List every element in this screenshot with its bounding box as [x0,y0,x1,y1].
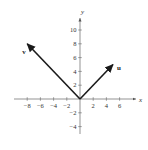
x-tick-label: −4 [50,102,58,109]
y-tick-label: 10 [70,26,77,33]
y-tick-label: −2 [70,109,77,116]
vector-v-label: v [22,48,26,56]
vector-diagram: −8−6−4−2246 108642−2−4 x y vu [0,0,148,150]
x-tick-label: −8 [24,102,31,109]
vector-u-label: u [117,64,121,72]
x-tick-label: 6 [118,102,122,109]
x-axis-label: x [138,96,143,104]
coordinate-plane: −8−6−4−2246 108642−2−4 x y vu [0,0,148,150]
x-tick-label: −6 [37,102,45,109]
vector-u [80,65,113,100]
vectors: vu [22,44,121,99]
x-tick-label: 2 [92,102,95,109]
y-axis-label: y [80,8,85,16]
y-tick-label: 2 [73,81,76,88]
y-tick-label: 6 [73,54,77,61]
y-tick-label: 8 [73,40,76,47]
y-tick-label: −4 [70,123,78,130]
y-tick-label: 4 [73,68,77,75]
x-tick-label: 4 [105,102,109,109]
x-tick-label: −2 [63,102,70,109]
vector-v [27,44,80,99]
